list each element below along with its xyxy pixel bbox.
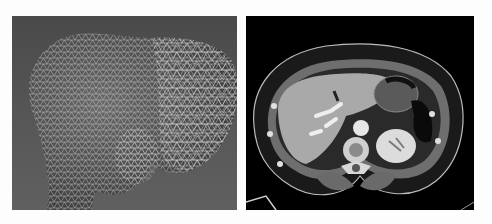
bone-wireframe-panel <box>12 16 237 210</box>
ct-scan-panel <box>246 16 474 210</box>
bone-mesh-illustration <box>12 16 237 210</box>
ct-axial-slice-illustration <box>246 16 474 210</box>
